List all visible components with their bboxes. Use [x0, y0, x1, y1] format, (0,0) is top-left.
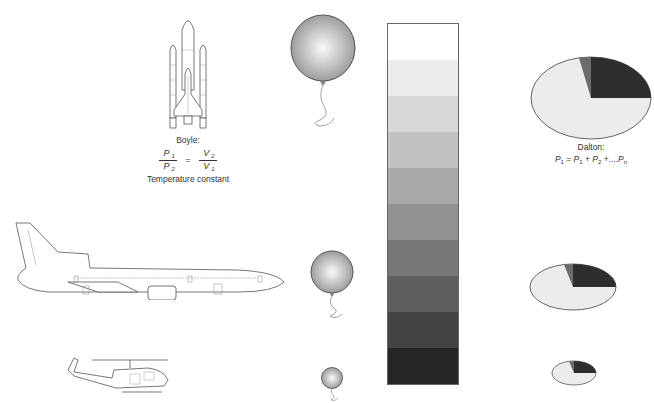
- equals-sign: =: [564, 154, 574, 164]
- pie-chart-icon: [551, 360, 597, 386]
- partial-pressure-pie-large: [529, 55, 653, 141]
- v1-symbol: V: [201, 161, 211, 171]
- pn-subscript: n: [624, 159, 627, 165]
- gradient-band: [388, 60, 458, 96]
- airliner-icon: [8, 220, 293, 300]
- balloon-icon: [320, 367, 344, 403]
- gradient-band: [388, 168, 458, 204]
- v2-subscript: 2: [211, 153, 214, 159]
- dalton-law-caption: Dalton: P1 = P1 + P2 +....Pn: [528, 143, 654, 166]
- ellipsis: +....: [601, 154, 618, 164]
- gradient-band: [388, 204, 458, 240]
- p1-symbol: P: [161, 148, 171, 158]
- partial-pressure-pie-medium: [529, 262, 617, 312]
- gradient-band: [388, 312, 458, 348]
- airliner-illustration: [8, 220, 293, 300]
- gradient-band: [388, 276, 458, 312]
- space-shuttle-icon: [158, 10, 218, 140]
- pie-chart-icon: [529, 55, 653, 141]
- p1-subscript: 1: [172, 153, 175, 159]
- boyle-condition: Temperature constant: [128, 175, 248, 185]
- v1-subscript: 1: [211, 166, 214, 172]
- dalton-formula: P1 = P1 + P2 +....Pn: [528, 155, 654, 166]
- plus-sign: +: [583, 154, 593, 164]
- pie-chart-icon: [529, 262, 617, 312]
- balloon-icon: [290, 14, 356, 132]
- boyle-title: Boyle:: [128, 136, 248, 146]
- balloon-large: [290, 14, 356, 132]
- pressure-gradient-bar: [387, 23, 459, 385]
- p2-subscript: 2: [172, 166, 175, 172]
- gradient-band: [388, 240, 458, 276]
- balloon-icon: [310, 250, 354, 322]
- gradient-band: [388, 24, 458, 60]
- space-shuttle-illustration: [158, 10, 218, 140]
- gradient-band: [388, 132, 458, 168]
- gradient-band: [388, 96, 458, 132]
- boyle-formula: P1 P2 = V2 V1: [128, 148, 248, 173]
- gradient-band: [388, 348, 458, 384]
- pressure-fraction: P1 P2: [159, 148, 176, 173]
- helicopter-icon: [60, 348, 170, 398]
- boyle-law-caption: Boyle: P1 P2 = V2 V1 Temperature constan…: [128, 136, 248, 184]
- v2-symbol: V: [201, 148, 211, 158]
- balloon-medium: [310, 250, 354, 322]
- p2-symbol: P: [161, 161, 171, 171]
- equals-sign: =: [179, 155, 196, 165]
- partial-pressure-pie-small: [551, 360, 597, 386]
- helicopter-illustration: [60, 348, 170, 398]
- dalton-title: Dalton:: [528, 143, 654, 153]
- volume-fraction: V2 V1: [199, 148, 216, 173]
- balloon-small: [320, 367, 344, 403]
